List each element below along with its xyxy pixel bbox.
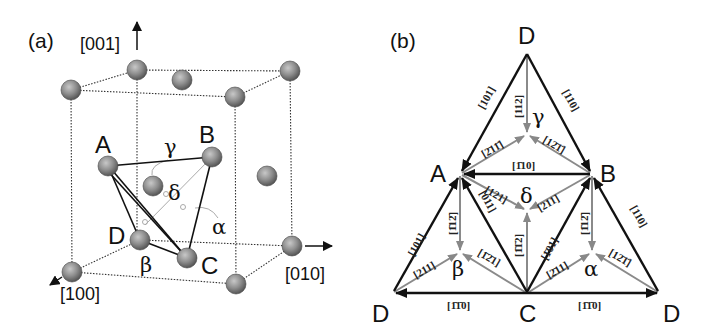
delta-label: δ bbox=[168, 181, 181, 205]
edge-label-b-dright: [110] bbox=[628, 203, 650, 229]
atom bbox=[257, 166, 277, 186]
atom bbox=[61, 80, 81, 100]
vertex-c-label: C bbox=[519, 300, 536, 327]
atom bbox=[225, 87, 245, 107]
vertex-d-top-label: D bbox=[518, 22, 535, 49]
vertex-d-left-label: D bbox=[372, 300, 389, 327]
panel-b-label: (b) bbox=[390, 29, 416, 52]
axis-010-label: [010] bbox=[285, 264, 325, 284]
edge-label-c-dleft: [1̄1̄0] bbox=[447, 299, 470, 311]
vertex-a-label: A bbox=[95, 131, 111, 158]
axis-001-label: [001] bbox=[80, 34, 120, 54]
panel-a: (a) [001] [0 bbox=[28, 22, 332, 304]
panel-b: (b) bbox=[372, 22, 680, 327]
atom bbox=[127, 60, 147, 80]
partial-label-delta-b: [211] bbox=[535, 192, 561, 214]
edge-label-da: [101] bbox=[475, 84, 497, 111]
atoms bbox=[61, 60, 302, 294]
edge-label-db: [110] bbox=[560, 87, 582, 113]
atom bbox=[172, 70, 192, 90]
atom-d bbox=[130, 230, 150, 250]
partial-label-gamma-a: [2̄11̄] bbox=[479, 138, 505, 160]
atom bbox=[280, 61, 300, 81]
partial-label-delta-c: [1̄1̄2] bbox=[512, 234, 524, 257]
beta-label: β bbox=[140, 253, 152, 277]
alpha-label: α bbox=[212, 215, 226, 239]
vertex-b-label: B bbox=[199, 121, 215, 148]
atom bbox=[226, 274, 246, 294]
atom-a bbox=[98, 156, 118, 176]
partial-label-gamma-b: [12̄1̄] bbox=[541, 133, 568, 155]
atom bbox=[62, 262, 82, 282]
gamma-label: γ bbox=[164, 135, 177, 159]
delta-label: δ bbox=[520, 184, 533, 208]
partial-label-beta-a: [1̄12̄] bbox=[446, 212, 458, 235]
partial-label-alpha-d: [12̄1̄] bbox=[607, 246, 634, 268]
atom bbox=[282, 236, 302, 256]
edge-label-cb: [1̄01] bbox=[538, 235, 560, 262]
alpha-label: α bbox=[584, 257, 598, 281]
panel-a-label: (a) bbox=[28, 29, 54, 52]
gamma-label: γ bbox=[532, 105, 545, 129]
atom-b bbox=[202, 147, 222, 167]
beta-label: β bbox=[452, 257, 464, 281]
vertex-b-label: B bbox=[600, 160, 616, 187]
atom bbox=[143, 176, 163, 196]
partial-label-beta-d: [211] bbox=[411, 259, 437, 281]
edge-label-c-dright: [1̄1̄0] bbox=[578, 299, 601, 311]
axis-100-label: [100] bbox=[60, 284, 100, 304]
partial-label-alpha-b: [1̄12̄] bbox=[578, 212, 590, 235]
vertex-c-label: C bbox=[201, 252, 218, 279]
figure-canvas: (a) [001] [0 bbox=[0, 0, 714, 335]
atom-c bbox=[177, 248, 197, 268]
edge-label-a-dleft: [101] bbox=[405, 231, 427, 258]
vertex-a-label: A bbox=[430, 160, 446, 187]
edge-label-ba: [1̄10] bbox=[512, 159, 535, 171]
partial-label-gamma-d: [112] bbox=[512, 95, 524, 118]
vertex-d-right-label: D bbox=[663, 300, 680, 327]
vertex-d-label: D bbox=[108, 222, 125, 249]
